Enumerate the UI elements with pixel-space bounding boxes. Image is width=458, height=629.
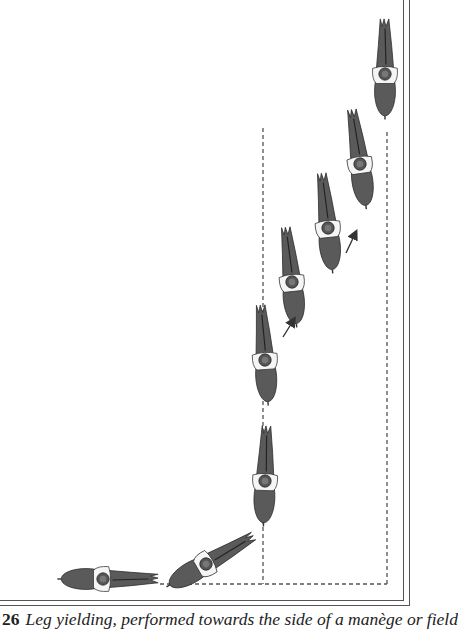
figure-number: 26 <box>2 609 20 629</box>
horse-sequence <box>57 19 397 598</box>
figure-caption-text: Leg yielding, performed towards the side… <box>26 609 458 629</box>
figure-caption: 26Leg yielding, performed towards the si… <box>2 609 458 629</box>
